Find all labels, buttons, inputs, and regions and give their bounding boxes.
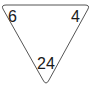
top-right-number: 4 <box>71 9 80 25</box>
top-left-number: 6 <box>8 9 17 25</box>
bottom-number: 24 <box>37 56 55 72</box>
